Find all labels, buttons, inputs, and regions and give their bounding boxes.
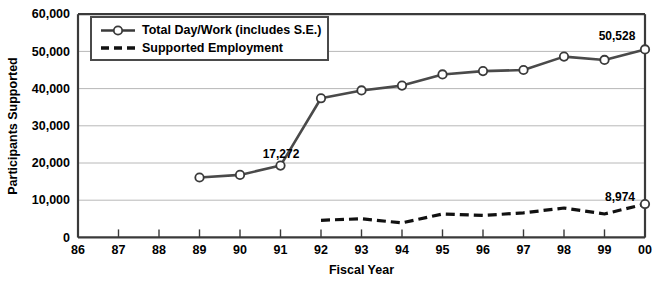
legend-label: Total Day/Work (includes S.E.) <box>142 23 321 37</box>
x-axis-tickmarks <box>78 229 645 237</box>
annotation-8974: 8,974 <box>605 190 635 204</box>
xtick-label: 87 <box>112 243 126 257</box>
xtick-label: 89 <box>193 243 207 257</box>
line-chart: 0 10,000 20,000 30,000 40,000 50,000 60,… <box>0 0 671 283</box>
data-point-marker <box>398 81 406 89</box>
ytick-label: 20,000 <box>32 156 70 170</box>
xtick-label: 86 <box>71 243 85 257</box>
series-total-day-work <box>195 45 649 181</box>
data-point-marker <box>438 70 446 78</box>
data-point-marker <box>479 67 487 75</box>
supported-employment-endpoint-marker <box>641 200 649 208</box>
xtick-label: 88 <box>152 243 166 257</box>
y-axis-ticks: 0 10,000 20,000 30,000 40,000 50,000 60,… <box>32 7 70 244</box>
data-point-marker <box>236 171 244 179</box>
xtick-label: 94 <box>395 243 409 257</box>
x-axis-title: Fiscal Year <box>329 263 394 277</box>
series-supported-employment <box>321 200 649 223</box>
ytick-label: 40,000 <box>32 82 70 96</box>
xtick-label: 91 <box>274 243 288 257</box>
ytick-label: 10,000 <box>32 193 70 207</box>
data-point-marker <box>195 173 203 181</box>
annotation-50528: 50,528 <box>599 29 636 43</box>
supported-employment-line <box>321 204 645 223</box>
xtick-label: 92 <box>314 243 328 257</box>
xtick-label: 95 <box>436 243 450 257</box>
legend-label: Supported Employment <box>142 41 284 55</box>
xtick-label: 96 <box>476 243 490 257</box>
data-point-marker <box>317 94 325 102</box>
legend-circle-marker-icon <box>114 26 122 34</box>
data-point-marker <box>560 52 568 60</box>
ytick-label: 0 <box>63 231 70 245</box>
data-point-marker <box>276 161 284 169</box>
xtick-label: 97 <box>517 243 531 257</box>
data-point-marker <box>357 86 365 94</box>
data-point-marker <box>641 45 649 53</box>
xtick-label: 93 <box>355 243 369 257</box>
ytick-label: 50,000 <box>32 45 70 59</box>
ytick-label: 30,000 <box>32 119 70 133</box>
total-day-work-markers <box>195 45 649 181</box>
xtick-label: 98 <box>557 243 571 257</box>
xtick-label: 90 <box>233 243 247 257</box>
y-axis-title: Participants Supported <box>6 57 20 195</box>
xtick-label: 00 <box>638 243 652 257</box>
data-point-marker <box>600 56 608 64</box>
x-axis-ticks: 86 87 88 89 90 91 92 93 94 95 96 97 98 9… <box>71 243 652 257</box>
xtick-label: 99 <box>598 243 612 257</box>
data-point-marker <box>519 66 527 74</box>
annotation-17272: 17,272 <box>263 147 300 161</box>
ytick-label: 60,000 <box>32 7 70 21</box>
legend: Total Day/Work (includes S.E.) Supported… <box>91 17 328 60</box>
chart-container: 0 10,000 20,000 30,000 40,000 50,000 60,… <box>0 0 671 283</box>
